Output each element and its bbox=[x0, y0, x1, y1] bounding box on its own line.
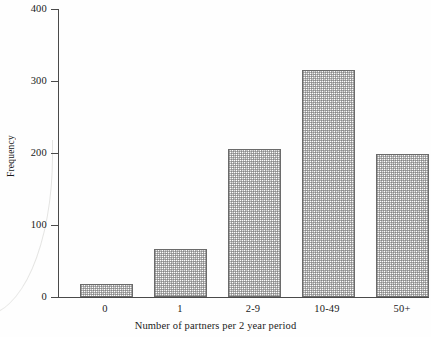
y-tick-label-200: 200 bbox=[3, 148, 47, 158]
plot-area bbox=[58, 9, 429, 297]
y-tick-mark-400 bbox=[51, 9, 58, 10]
y-tick-label-300: 300 bbox=[3, 76, 47, 86]
y-tick-mark-100 bbox=[51, 225, 58, 226]
x-axis-title: Number of partners per 2 year period bbox=[0, 320, 431, 331]
x-axis-line bbox=[58, 297, 429, 298]
y-tick-100: 100 bbox=[0, 220, 47, 230]
y-tick-400: 400 bbox=[0, 4, 47, 14]
x-tick-label-0: 0 bbox=[80, 303, 130, 314]
bar-1 bbox=[154, 249, 207, 297]
y-tick-label-400: 400 bbox=[3, 4, 47, 14]
y-tick-0: 0 bbox=[0, 292, 47, 302]
y-tick-mark-300 bbox=[51, 81, 58, 82]
bar-2-9 bbox=[228, 149, 281, 297]
histogram-chart: Frequency 400 300 200 100 0 0 1 2-9 10-4… bbox=[0, 0, 431, 337]
x-tick-label-50+: 50+ bbox=[377, 303, 427, 314]
x-tick-label-10-49: 10-49 bbox=[300, 303, 354, 314]
bar-10-49 bbox=[302, 70, 355, 297]
y-tick-mark-200 bbox=[51, 153, 58, 154]
y-tick-label-100: 100 bbox=[3, 220, 47, 230]
y-tick-mark-0 bbox=[51, 297, 58, 298]
y-tick-200: 200 bbox=[0, 148, 47, 158]
bar-50+ bbox=[376, 154, 429, 297]
y-tick-300: 300 bbox=[0, 76, 47, 86]
bar-0 bbox=[80, 284, 133, 297]
x-tick-label-2-9: 2-9 bbox=[228, 303, 278, 314]
y-tick-label-0: 0 bbox=[3, 292, 47, 302]
x-tick-label-1: 1 bbox=[155, 303, 205, 314]
